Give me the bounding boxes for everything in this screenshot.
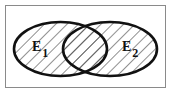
set-e2-subscript: 2 [132,46,138,60]
venn-diagram: E1 E2 [0,0,174,92]
set-e1-subscript: 1 [42,46,48,60]
